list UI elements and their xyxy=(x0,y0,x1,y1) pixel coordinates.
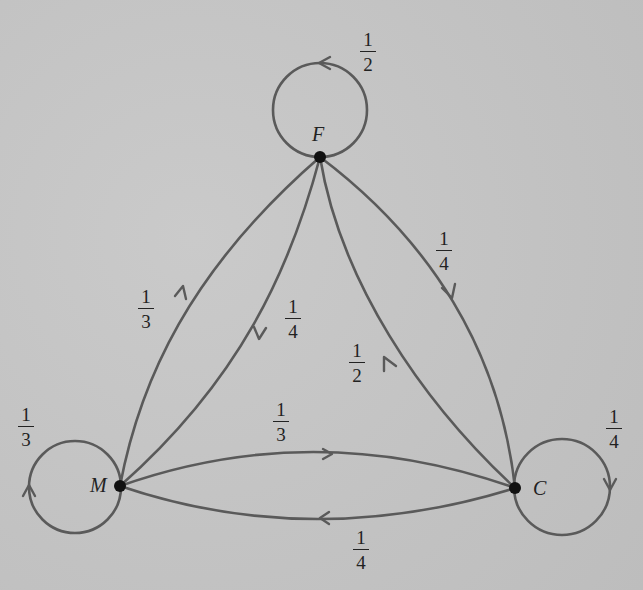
prob-label-F-M: 14 xyxy=(285,297,301,341)
edge-C-F xyxy=(320,157,515,488)
prob-label-C-C: 14 xyxy=(606,407,622,451)
prob-label-C-F: 12 xyxy=(349,341,365,385)
loop-M-M xyxy=(29,441,121,533)
arrow-icon xyxy=(384,357,396,371)
arrow-icon xyxy=(323,449,332,459)
prob-label-F-F: 12 xyxy=(360,30,376,74)
edge-F-C xyxy=(320,157,515,488)
diagram-graphics xyxy=(0,0,643,590)
node-label-C: C xyxy=(533,477,546,500)
node-F xyxy=(314,151,326,163)
loop-C-C xyxy=(514,439,610,535)
arrow-icon xyxy=(254,327,266,339)
node-label-F: F xyxy=(312,123,324,146)
node-M xyxy=(114,480,126,492)
prob-label-M-C: 13 xyxy=(273,400,289,444)
edge-C-M xyxy=(120,486,515,519)
node-C xyxy=(509,482,521,494)
prob-label-F-C: 14 xyxy=(436,229,452,273)
prob-label-M-M: 13 xyxy=(18,405,34,449)
node-label-M: M xyxy=(90,474,107,497)
prob-label-C-M: 14 xyxy=(353,528,369,572)
arrow-icon xyxy=(175,286,186,299)
prob-label-M-F: 13 xyxy=(138,287,154,331)
markov-diagram: F M C 12 13 14 13 14 12 14 13 14 xyxy=(0,0,643,590)
edge-M-C xyxy=(120,452,515,488)
